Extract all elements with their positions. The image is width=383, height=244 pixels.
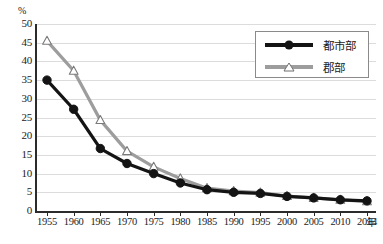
x-tick-label-1995: 1995 [250, 216, 270, 228]
legend-swatch-rural [263, 59, 315, 75]
filled-circle-icon [285, 40, 294, 49]
x-tick-label-1985: 1985 [197, 216, 217, 228]
x-tick-label-1955: 1955 [37, 216, 57, 228]
open-triangle-icon-svg [283, 61, 295, 72]
x-tick-label-1965: 1965 [90, 216, 110, 228]
data-point-marker-circle [123, 159, 131, 167]
legend-swatch-urban [263, 37, 315, 53]
data-point-marker-circle [336, 196, 344, 204]
x-tick-label-1960: 1960 [64, 216, 84, 228]
legend-label-urban: 都市部 [323, 37, 356, 53]
data-point-marker-circle [229, 188, 237, 196]
legend-item-rural: 郡部 [256, 55, 368, 78]
x-axis-tick-labels: 1955196019651970197519801985199019952000… [0, 216, 383, 232]
chart-legend: 都市部 郡部 [255, 31, 369, 78]
legend-label-rural: 郡部 [323, 59, 345, 75]
x-tick-label-1990: 1990 [224, 216, 244, 228]
data-point-marker-triangle [43, 36, 52, 44]
data-point-marker-circle [283, 192, 291, 200]
x-tick-label-2010: 2010 [330, 216, 350, 228]
series-line [47, 80, 367, 201]
x-tick-label-2005: 2005 [304, 216, 324, 228]
x-tick-label-1970: 1970 [117, 216, 137, 228]
data-point-marker-circle [96, 144, 104, 152]
series-urban [43, 76, 371, 205]
x-axis-unit-label: 年 [366, 216, 376, 228]
data-point-marker-circle [203, 185, 211, 193]
data-point-marker-circle [363, 197, 371, 205]
chart-figure: % 50454035302520151050 19551960196519701… [0, 0, 383, 244]
data-point-marker-circle [256, 189, 264, 197]
data-point-marker-circle [43, 76, 51, 84]
data-point-marker-circle [149, 169, 157, 177]
x-tick-label-2000: 2000 [277, 216, 297, 228]
x-tick-label-1980: 1980 [170, 216, 190, 228]
legend-item-urban: 都市部 [256, 33, 368, 56]
x-tick-label-1975: 1975 [144, 216, 164, 228]
data-point-marker-circle [69, 105, 77, 113]
data-point-marker-circle [309, 194, 317, 202]
data-point-marker-circle [176, 179, 184, 187]
